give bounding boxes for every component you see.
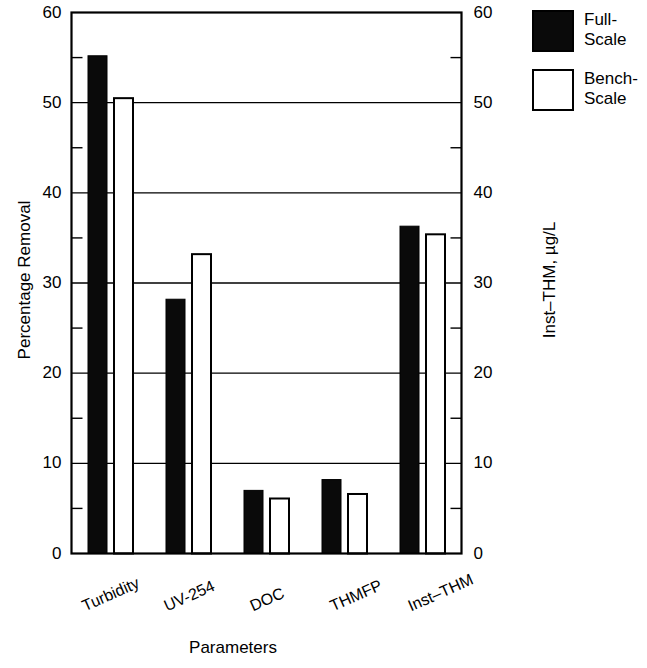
bar-thmfp-bench-scale bbox=[348, 494, 367, 554]
legend-item-full-scale: Full- Scale bbox=[532, 10, 644, 52]
y-tick-label-right: 60 bbox=[474, 4, 520, 21]
legend-label-full-scale-line2: Scale bbox=[584, 30, 627, 50]
y-tick-label-left: 50 bbox=[16, 94, 62, 111]
legend-label-full-scale: Full- Scale bbox=[584, 10, 627, 50]
bar-chart-figure: Percentage Removal Inst–THM, µg/L Parame… bbox=[0, 0, 647, 668]
legend-swatch-full-scale-icon bbox=[532, 10, 574, 52]
y-tick-label-left: 20 bbox=[16, 364, 62, 381]
y-tick-label-left: 10 bbox=[16, 454, 62, 471]
y-tick-label-left: 60 bbox=[16, 4, 62, 21]
legend-item-bench-scale: Bench- Scale bbox=[532, 69, 644, 111]
bar-inst-thm-bench-scale bbox=[426, 234, 445, 553]
y-tick-label-left: 40 bbox=[16, 184, 62, 201]
y-tick-label-right: 10 bbox=[474, 454, 520, 471]
bar-turbidity-bench-scale bbox=[114, 98, 133, 553]
y-tick-label-right: 0 bbox=[474, 545, 520, 562]
y-tick-label-left: 30 bbox=[16, 274, 62, 291]
y-axis-label-right: Inst–THM, µg/L bbox=[540, 160, 560, 400]
legend: Full- Scale Bench- Scale bbox=[532, 10, 644, 128]
x-axis-label: Parameters bbox=[0, 638, 466, 658]
y-tick-label-left: 0 bbox=[16, 545, 62, 562]
y-tick-label-right: 20 bbox=[474, 364, 520, 381]
legend-label-bench-scale-line2: Scale bbox=[584, 89, 638, 109]
y-tick-label-right: 50 bbox=[474, 94, 520, 111]
y-tick-label-right: 30 bbox=[474, 274, 520, 291]
bar-uv-254-full-scale bbox=[166, 299, 185, 553]
bar-uv-254-bench-scale bbox=[192, 254, 211, 553]
legend-label-bench-scale: Bench- Scale bbox=[584, 69, 638, 109]
bar-thmfp-full-scale bbox=[322, 480, 341, 554]
legend-swatch-bench-scale-icon bbox=[532, 69, 574, 111]
legend-label-bench-scale-line1: Bench- bbox=[584, 69, 638, 89]
bar-series-group bbox=[88, 56, 445, 554]
y-tick-label-right: 40 bbox=[474, 184, 520, 201]
bar-inst-thm-full-scale bbox=[400, 226, 419, 553]
bar-doc-bench-scale bbox=[270, 499, 289, 554]
legend-label-full-scale-line1: Full- bbox=[584, 10, 627, 30]
bar-doc-full-scale bbox=[244, 490, 263, 553]
bar-turbidity-full-scale bbox=[88, 56, 107, 554]
